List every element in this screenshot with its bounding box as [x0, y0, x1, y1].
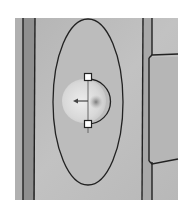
side-panel — [149, 57, 178, 161]
cad-viewport[interactable] — [0, 0, 192, 213]
left-dark-band — [23, 18, 35, 200]
edge-line — [142, 18, 143, 200]
left-edge-band — [15, 18, 23, 200]
sphere-core — [89, 95, 103, 109]
drag-handle-icon[interactable] — [85, 121, 92, 128]
drag-handle-icon[interactable] — [85, 74, 92, 81]
edge-line — [34, 18, 35, 200]
